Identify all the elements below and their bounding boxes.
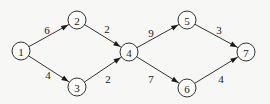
edge-weight-label: 7 (148, 73, 154, 85)
edge-weight-label: 4 (45, 69, 51, 81)
network-diagram-svg: 1234567 64229734 (0, 0, 270, 104)
node-2: 2 (68, 11, 86, 29)
edge-2-4 (85, 25, 122, 48)
edge-weight-label: 4 (218, 73, 224, 85)
edge-6-7 (195, 57, 239, 84)
node-label: 1 (18, 46, 24, 58)
node-label: 6 (184, 83, 190, 95)
edge-weight-label: 9 (148, 27, 154, 39)
node-6: 6 (178, 79, 196, 97)
arrowhead-icon (230, 42, 237, 48)
node-label: 4 (126, 47, 132, 59)
edge-weight-label: 3 (216, 24, 222, 36)
arrowhead-icon (171, 77, 178, 83)
node-7: 7 (237, 43, 255, 61)
arrowhead-icon (61, 25, 68, 31)
edge-4-6 (137, 57, 180, 84)
arrowhead-icon (61, 76, 68, 82)
network-diagram: 1234567 64229734 (0, 0, 270, 104)
edge-4-5 (137, 24, 179, 47)
node-label: 7 (243, 47, 249, 59)
arrowhead-icon (230, 57, 237, 63)
node-5: 5 (178, 11, 196, 29)
node-1: 1 (12, 42, 30, 60)
arrowhead-icon (113, 58, 120, 64)
node-label: 5 (184, 15, 190, 27)
edge-weight-label: 2 (105, 73, 111, 85)
node-label: 2 (74, 15, 80, 27)
node-4: 4 (120, 43, 138, 61)
edge-3-4 (84, 57, 121, 82)
node-3: 3 (68, 78, 86, 96)
arrowhead-icon (113, 41, 120, 47)
edge-weight-label: 2 (104, 23, 110, 35)
arrowhead-icon (171, 25, 178, 31)
node-label: 3 (74, 82, 80, 94)
edge-weight-label: 6 (44, 24, 50, 36)
